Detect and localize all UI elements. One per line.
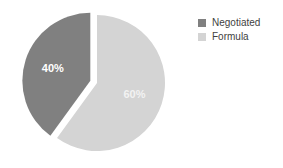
chart-legend: Negotiated Formula: [198, 17, 280, 45]
pie-chart: 40% 60% Negotiated Formula: [0, 0, 283, 168]
legend-swatch-negotiated: [198, 19, 206, 27]
legend-label-formula: Formula: [212, 31, 249, 43]
pie-plot-area: 40% 60%: [0, 0, 185, 168]
legend-label-negotiated: Negotiated: [212, 17, 260, 29]
legend-item-negotiated[interactable]: Negotiated: [198, 17, 280, 29]
pie-label-negotiated: 40%: [42, 62, 64, 74]
legend-item-formula[interactable]: Formula: [198, 31, 280, 43]
legend-swatch-formula: [198, 33, 206, 41]
pie-svg: 40% 60%: [0, 0, 185, 168]
pie-label-formula: 60%: [123, 88, 145, 100]
